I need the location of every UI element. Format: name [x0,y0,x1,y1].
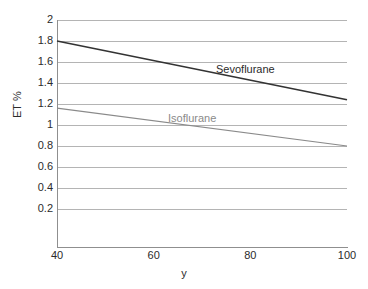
gridline [57,62,347,63]
series-label-isoflurane: Isoflurane [168,113,216,124]
tick-text: 1 [47,119,53,130]
gridline [57,20,347,21]
tick-text: 60 [148,250,160,261]
tick-text: 100 [338,250,356,261]
tick-text: 1.4 [38,77,53,88]
gridline [57,83,347,84]
x-axis-line [57,247,348,248]
y-axis-line [57,20,58,248]
gridline [57,104,347,105]
y-axis-title: ET % [12,91,23,118]
tick-text: 0.8 [38,140,53,151]
tick-text: 80 [244,250,256,261]
gridline [57,188,347,189]
gridline [57,125,347,126]
line-chart: 0.20.40.60.811.21.41.61.82 406080100 ET … [0,0,368,289]
tick-text: 1.8 [38,35,53,46]
gridline [57,146,347,147]
tick-text: 0.2 [38,203,53,214]
gridline [57,167,347,168]
gridline [57,209,347,210]
tick-text: 40 [51,250,63,261]
tick-text: 1.6 [38,56,53,67]
plot-area [57,20,347,247]
gridline [57,41,347,42]
tick-text: 0.6 [38,161,53,172]
tick-text: 2 [47,14,53,25]
tick-text: 1.2 [38,98,53,109]
tick-text: 0.4 [38,182,53,193]
series-label-sevoflurane: Sevoflurane [216,64,275,75]
x-axis-title: y [0,268,368,279]
